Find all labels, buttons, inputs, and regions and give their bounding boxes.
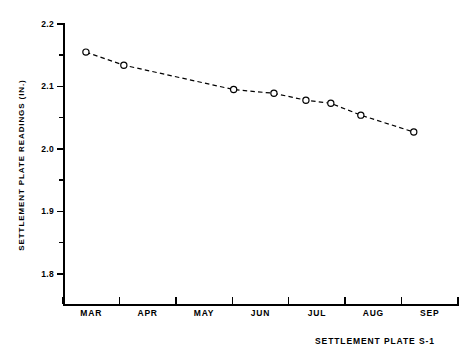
chart-figure: SETTLEMENT PLATE READINGS (IN.) 2.22.12.… bbox=[0, 0, 470, 356]
data-point-marker bbox=[271, 90, 277, 96]
data-point-marker bbox=[231, 86, 237, 92]
data-point-marker bbox=[303, 97, 309, 103]
data-point-marker bbox=[328, 100, 334, 106]
data-point-marker bbox=[83, 49, 89, 55]
data-point-marker bbox=[121, 62, 127, 68]
figure-caption: SETTLEMENT PLATE S-1 bbox=[315, 336, 435, 346]
data-point-markers bbox=[83, 49, 417, 135]
data-series-line bbox=[0, 0, 470, 356]
data-point-marker bbox=[411, 129, 417, 135]
data-point-marker bbox=[358, 112, 364, 118]
